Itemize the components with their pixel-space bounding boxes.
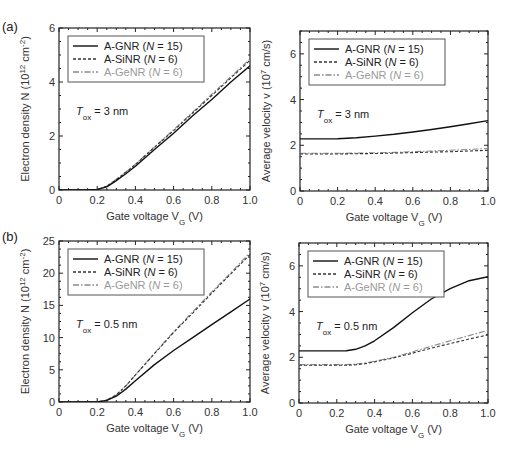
- x-axis-label: Gate voltage VG (V): [106, 210, 203, 227]
- x-tick-label: 1.0: [242, 406, 257, 418]
- legend-label: A-GNR (N = 15): [104, 253, 183, 265]
- x-tick-label: 1.0: [242, 194, 257, 206]
- x-axis-label: Gate voltage VG (V): [106, 422, 203, 439]
- x-tick-label: 0: [297, 195, 303, 207]
- series-line: [300, 149, 488, 154]
- oxide-thickness-annotation: Tox = 0.5 nm: [76, 318, 137, 335]
- y-tick-label: 20: [43, 267, 55, 279]
- y-tick-label: 6: [289, 260, 295, 272]
- x-tick-label: 0.8: [204, 406, 219, 418]
- x-tick-label: 0: [56, 406, 62, 418]
- x-tick-label: 1.0: [480, 195, 495, 207]
- legend-label: A-SiNR (N = 6): [344, 268, 418, 280]
- legend-label: A-GeNR (N = 6): [104, 279, 183, 291]
- x-tick-label: 0: [296, 407, 302, 419]
- x-tick-label: 0.2: [329, 407, 344, 419]
- series-line: [299, 335, 488, 365]
- y-axis-label: Electron density N (1012 cm-2): [18, 249, 32, 395]
- chart-a-electron-density: 00.20.40.60.81.00246Gate voltage VG (V)E…: [18, 22, 258, 227]
- x-tick-label: 0.4: [368, 195, 383, 207]
- y-tick-label: 4: [289, 306, 295, 318]
- y-tick-label: 2: [289, 351, 295, 363]
- legend: A-GNR (N = 15)A-SiNR (N = 6)A-GeNR (N = …: [308, 251, 444, 297]
- figure-canvas: 00.20.40.60.81.00246Gate voltage VG (V)E…: [0, 0, 513, 449]
- x-tick-label: 0.4: [128, 406, 143, 418]
- x-tick-label: 0.8: [204, 194, 219, 206]
- legend-label: A-SiNR (N = 6): [104, 53, 178, 65]
- chart-b-average-velocity: 00.20.40.60.81.00246Gate voltage VG (V)A…: [258, 243, 496, 440]
- x-axis-label: Gate voltage VG (V): [345, 423, 442, 440]
- legend-label: A-SiNR (N = 6): [104, 266, 178, 278]
- x-tick-label: 0.6: [405, 407, 420, 419]
- series-line: [59, 299, 250, 402]
- y-tick-label: 5: [49, 364, 55, 376]
- y-tick-label: 4: [290, 94, 296, 106]
- x-tick-label: 0.4: [128, 194, 143, 206]
- x-tick-label: 0.6: [166, 406, 181, 418]
- y-tick-label: 6: [290, 48, 296, 60]
- y-axis-label: Average velocity v (107 cm/s): [259, 40, 273, 182]
- legend: A-GNR (N = 15)A-SiNR (N = 6)A-GeNR (N = …: [68, 36, 204, 82]
- y-tick-label: 0: [289, 397, 295, 409]
- x-axis-label: Gate voltage VG (V): [346, 211, 443, 228]
- x-tick-label: 0.2: [90, 406, 105, 418]
- x-tick-label: 0.8: [443, 195, 458, 207]
- chart-b-electron-density: 00.20.40.60.81.00510152025Gate voltage V…: [18, 235, 258, 439]
- y-tick-label: 4: [49, 76, 55, 88]
- series-line: [59, 66, 250, 190]
- x-tick-label: 0.4: [367, 407, 382, 419]
- legend-label: A-GNR (N = 15): [345, 43, 424, 55]
- legend-label: A-GNR (N = 15): [344, 255, 423, 267]
- x-tick-label: 0: [56, 194, 62, 206]
- oxide-thickness-annotation: Tox = 0.5 nm: [316, 320, 377, 337]
- y-tick-label: 25: [43, 235, 55, 247]
- legend-label: A-GeNR (N = 6): [345, 69, 424, 81]
- x-tick-label: 0.6: [166, 194, 181, 206]
- y-tick-label: 10: [43, 332, 55, 344]
- y-tick-label: 15: [43, 299, 55, 311]
- y-axis-label: Average velocity v (107 cm/s): [258, 252, 272, 394]
- y-axis-label: Electron density N (1012 cm-2): [18, 36, 32, 182]
- legend-label: A-GNR (N = 15): [104, 40, 183, 52]
- oxide-thickness-annotation: Tox = 3 nm: [76, 105, 128, 122]
- y-tick-label: 2: [290, 139, 296, 151]
- x-tick-label: 1.0: [480, 407, 495, 419]
- legend-label: A-GeNR (N = 6): [344, 281, 423, 293]
- legend: A-GNR (N = 15)A-SiNR (N = 6)A-GeNR (N = …: [309, 39, 445, 85]
- y-tick-label: 6: [49, 22, 55, 34]
- y-tick-label: 0: [49, 396, 55, 408]
- legend: A-GNR (N = 15)A-SiNR (N = 6)A-GeNR (N = …: [68, 249, 204, 295]
- legend-label: A-GeNR (N = 6): [104, 66, 183, 78]
- x-tick-label: 0.8: [443, 407, 458, 419]
- x-tick-label: 0.6: [405, 195, 420, 207]
- chart-a-average-velocity: 00.20.40.60.81.00246Gate voltage VG (V)A…: [259, 31, 496, 228]
- x-tick-label: 0.2: [90, 194, 105, 206]
- y-tick-label: 0: [49, 184, 55, 196]
- oxide-thickness-annotation: Tox = 3 nm: [317, 108, 369, 125]
- y-tick-label: 0: [290, 185, 296, 197]
- x-tick-label: 0.2: [330, 195, 345, 207]
- y-tick-label: 2: [49, 130, 55, 142]
- legend-label: A-SiNR (N = 6): [345, 56, 419, 68]
